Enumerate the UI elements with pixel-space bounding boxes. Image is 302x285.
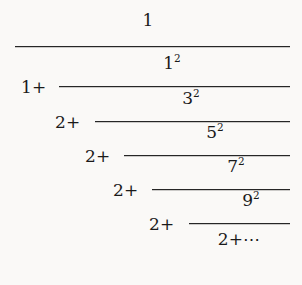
fraction-bar-level-1 (59, 86, 290, 87)
lead-term-level-5-value: 2+ (149, 214, 174, 234)
numerator-level-4-exponent: 2 (238, 155, 245, 167)
numerator-level-1-exponent: 2 (174, 52, 181, 64)
numerator-level-3-base: 5 (206, 122, 217, 142)
fraction-bar-level-2 (95, 121, 290, 122)
numerator-level-0: 1 (143, 12, 154, 29)
lead-term-level-2: 2+ (55, 114, 80, 131)
numerator-level-3: 52 (206, 124, 224, 141)
lead-term-level-3-value: 2+ (85, 146, 110, 166)
numerator-level-2: 32 (182, 90, 200, 107)
numerator-level-1-base: 1 (163, 53, 174, 73)
numerator-level-1: 12 (163, 55, 181, 72)
numerator-level-3-exponent: 2 (217, 121, 224, 133)
numerator-level-4-base: 7 (227, 156, 238, 176)
ellipsis-icon: ⋯ (243, 229, 260, 249)
fraction-bar-level-3 (124, 155, 290, 156)
numerator-level-5-base: 9 (242, 190, 253, 210)
lead-term-level-3: 2+ (85, 148, 110, 165)
fraction-bar-level-4 (152, 189, 290, 190)
lead-term-level-4: 2+ (113, 182, 138, 199)
tail-denominator-term: 2+ (218, 229, 243, 249)
numerator-level-5: 92 (242, 192, 260, 209)
lead-term-level-5: 2+ (149, 216, 174, 233)
numerator-level-0-value: 1 (143, 10, 154, 30)
fraction-bar-level-0 (15, 46, 290, 47)
numerator-level-4: 72 (227, 158, 245, 175)
numerator-level-5-exponent: 2 (253, 189, 260, 201)
lead-term-level-1: 1+ (21, 79, 46, 96)
numerator-level-2-exponent: 2 (193, 87, 200, 99)
lead-term-level-1-value: 1+ (21, 77, 46, 97)
fraction-bar-level-5 (189, 223, 290, 224)
continued-fraction-figure: 1 1+ 12 2+ 32 2+ 52 2+ 72 2+ 92 2+⋯ (0, 0, 302, 285)
lead-term-level-4-value: 2+ (113, 180, 138, 200)
tail-denominator: 2+⋯ (218, 231, 260, 248)
numerator-level-2-base: 3 (182, 88, 193, 108)
lead-term-level-2-value: 2+ (55, 112, 80, 132)
